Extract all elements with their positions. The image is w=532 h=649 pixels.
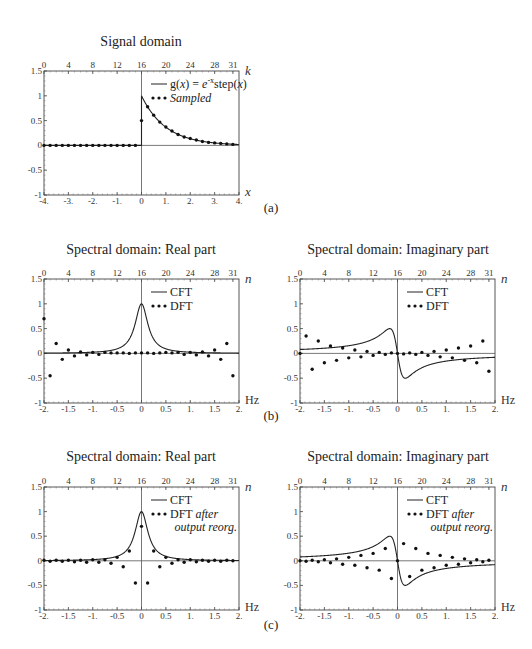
x-tick-label: 0 bbox=[139, 404, 144, 414]
sample-dot bbox=[182, 135, 185, 138]
x-tick-label: -0.5 bbox=[366, 611, 381, 621]
sample-dot bbox=[79, 350, 82, 353]
sample-dot bbox=[347, 356, 350, 359]
legend-label: DFT bbox=[426, 299, 449, 313]
top-tick-label: 20 bbox=[161, 476, 171, 486]
sample-dot bbox=[115, 556, 118, 559]
top-tick-label: 4 bbox=[66, 268, 71, 278]
x-tick-label: 0 bbox=[395, 611, 400, 621]
panel-label: (a) bbox=[264, 200, 278, 215]
y-tick-label: 1 bbox=[294, 299, 299, 309]
sample-dot bbox=[189, 351, 192, 354]
legend-dot-swatch bbox=[419, 304, 422, 307]
sample-dot bbox=[195, 138, 198, 141]
x-tick-label: 2. bbox=[187, 196, 194, 206]
top-tick-label: 24 bbox=[442, 268, 452, 278]
sample-dot bbox=[91, 351, 94, 354]
top-tick-label: 0 bbox=[42, 268, 47, 278]
sample-dot bbox=[298, 352, 301, 355]
sample-dot bbox=[426, 354, 429, 357]
sample-dot bbox=[140, 525, 143, 528]
x-tick-label: 0 bbox=[139, 196, 144, 206]
sample-dot bbox=[475, 558, 478, 561]
sample-dot bbox=[329, 561, 332, 564]
sample-dot bbox=[359, 355, 362, 358]
y-tick-label: 0.5 bbox=[287, 324, 299, 334]
top-tick-label: 8 bbox=[347, 268, 352, 278]
chart-title: Spectral domain: Imaginary part bbox=[307, 242, 489, 257]
x-tick-label: 2. bbox=[236, 404, 243, 414]
sample-dot bbox=[213, 559, 216, 562]
sample-dot bbox=[134, 581, 137, 584]
sample-dot bbox=[219, 560, 222, 563]
sample-dot bbox=[481, 560, 484, 563]
sample-dot bbox=[420, 351, 423, 354]
sample-dot bbox=[73, 560, 76, 563]
sample-dot bbox=[384, 353, 387, 356]
top-tick-label: 28 bbox=[210, 476, 220, 486]
top-tick-label: 31 bbox=[228, 476, 237, 486]
top-tick-label: 12 bbox=[369, 268, 378, 278]
sample-dot bbox=[85, 353, 88, 356]
sample-dot bbox=[225, 342, 228, 345]
sample-dot bbox=[347, 556, 350, 559]
sample-dot bbox=[195, 353, 198, 356]
sample-dot bbox=[115, 144, 118, 147]
sample-dot bbox=[432, 566, 435, 569]
sample-dot bbox=[451, 356, 454, 359]
x-tick-label: 0 bbox=[395, 404, 400, 414]
legend-label: DFT after bbox=[426, 507, 474, 521]
sample-dot bbox=[128, 352, 131, 355]
top-tick-label: 31 bbox=[484, 476, 493, 486]
top-tick-label: 4 bbox=[66, 476, 71, 486]
sample-dot bbox=[378, 351, 381, 354]
sample-dot bbox=[146, 105, 149, 108]
sample-dot bbox=[122, 144, 125, 147]
sample-dot bbox=[207, 354, 210, 357]
y-tick-label: 0.5 bbox=[31, 531, 43, 541]
legend-dot-swatch bbox=[157, 96, 160, 99]
x-tick-label: -0.5 bbox=[110, 611, 125, 621]
sample-dot bbox=[304, 334, 307, 337]
sample-dot bbox=[164, 125, 167, 128]
y-tick-label: 0.5 bbox=[287, 531, 299, 541]
x-tick-label: 1.5 bbox=[465, 404, 477, 414]
x-tick-label: 1. bbox=[443, 404, 450, 414]
sample-dot bbox=[396, 559, 399, 562]
sample-dot bbox=[207, 141, 210, 144]
sample-dot bbox=[213, 141, 216, 144]
top-tick-label: 0 bbox=[42, 476, 47, 486]
legend-dot-swatch bbox=[151, 512, 154, 515]
x-tick-label: -2. bbox=[39, 404, 49, 414]
sample-dot bbox=[103, 558, 106, 561]
y-tick-label: 0 bbox=[294, 348, 299, 358]
sample-dot bbox=[189, 137, 192, 140]
top-tick-label: 12 bbox=[113, 476, 122, 486]
x-axis-label: x bbox=[244, 184, 251, 199]
sample-dot bbox=[310, 368, 313, 371]
top-tick-label: 4 bbox=[322, 476, 327, 486]
x-tick-label: 0.5 bbox=[160, 404, 172, 414]
figure: Signal domain1.510.50-0.5-1-4.-3.-2.-1.0… bbox=[0, 0, 532, 649]
x-tick-label: 1.5 bbox=[465, 611, 477, 621]
sample-dot bbox=[152, 113, 155, 116]
top-tick-label: 31 bbox=[228, 60, 237, 70]
sample-dot bbox=[225, 559, 228, 562]
sample-dot bbox=[219, 142, 222, 145]
sample-dot bbox=[85, 144, 88, 147]
legend-dot-swatch bbox=[419, 512, 422, 515]
x-tick-label: 1. bbox=[443, 611, 450, 621]
top-tick-label: 8 bbox=[91, 60, 96, 70]
top-axis-label: n bbox=[245, 271, 252, 286]
legend-dot-swatch bbox=[413, 512, 416, 515]
legend-label: CFT bbox=[170, 493, 193, 507]
top-tick-label: 8 bbox=[347, 476, 352, 486]
x-axis-label: Hz bbox=[501, 393, 515, 407]
sample-dot bbox=[402, 352, 405, 355]
top-axis-label: k bbox=[245, 63, 251, 78]
sample-dot bbox=[432, 350, 435, 353]
sample-dot bbox=[378, 568, 381, 571]
sample-dot bbox=[402, 542, 405, 545]
sample-dot bbox=[304, 560, 307, 563]
y-tick-label: 0 bbox=[38, 348, 43, 358]
